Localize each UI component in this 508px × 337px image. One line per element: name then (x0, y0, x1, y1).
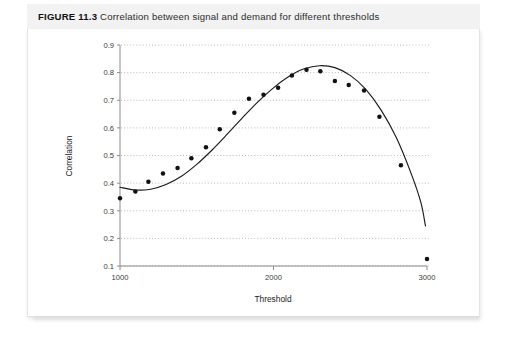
x-tick-label-3000: 3000 (419, 273, 436, 282)
fitted-curve (120, 66, 425, 226)
gridlines (121, 45, 431, 266)
x-axis-ticks: 100020003000 (112, 266, 436, 282)
data-point (346, 83, 351, 88)
data-point (146, 179, 151, 184)
data-point (161, 171, 166, 176)
data-point (218, 127, 223, 132)
data-point (318, 69, 323, 74)
y-tick-label-0.2: 0.2 (103, 234, 114, 243)
x-axis-title: Threshold (254, 294, 292, 304)
data-point (377, 115, 382, 120)
data-point (333, 79, 338, 84)
y-tick-label-0.1: 0.1 (103, 262, 114, 271)
data-point (425, 257, 430, 262)
data-point (189, 156, 194, 161)
data-point (247, 97, 252, 102)
data-point (175, 166, 180, 171)
y-axis-title: Correlation (64, 135, 74, 176)
data-point (232, 110, 237, 115)
data-point (261, 92, 266, 97)
data-point (276, 86, 281, 91)
data-point (304, 68, 309, 73)
data-points (118, 68, 430, 262)
data-point (118, 196, 123, 201)
x-tick-label-1000: 1000 (112, 273, 129, 282)
y-axis-ticks: 0.10.20.30.40.50.60.70.80.9 (103, 41, 120, 271)
y-tick-label-0.3: 0.3 (103, 207, 114, 216)
y-tick-label-0.7: 0.7 (103, 96, 114, 105)
y-tick-label-0.9: 0.9 (103, 41, 114, 50)
x-tick-label-2000: 2000 (265, 273, 282, 282)
chart-canvas: 0.10.20.30.40.50.60.70.80.9 100020003000… (0, 0, 508, 337)
y-tick-label-0.6: 0.6 (103, 124, 114, 133)
y-tick-label-0.5: 0.5 (103, 151, 114, 160)
data-point (290, 73, 295, 78)
figure-container: FIGURE 11.3 Correlation between signal a… (0, 0, 508, 337)
data-point (399, 163, 404, 168)
y-tick-label-0.4: 0.4 (103, 179, 114, 188)
y-tick-label-0.8: 0.8 (103, 68, 114, 77)
data-point (133, 189, 138, 194)
data-point (362, 88, 367, 93)
data-point (204, 145, 209, 150)
